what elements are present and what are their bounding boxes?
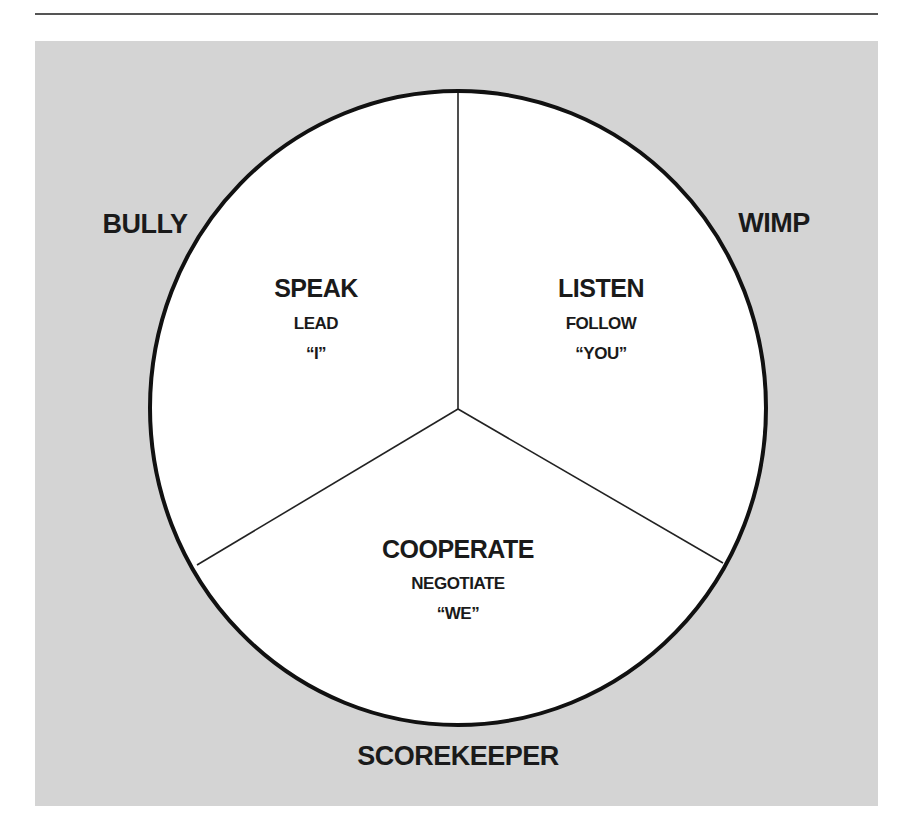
segment-left-title: SPEAK: [274, 276, 358, 301]
communication-circle-diagram: [0, 0, 914, 838]
segment-bottom-pronoun: “WE”: [437, 605, 479, 622]
segment-bottom-title: COOPERATE: [382, 537, 534, 562]
segment-left-subtitle: LEAD: [294, 315, 338, 332]
segment-bottom-subtitle: NEGOTIATE: [411, 575, 504, 592]
label-scorekeeper: SCOREKEEPER: [357, 743, 559, 770]
segment-right-subtitle: FOLLOW: [566, 315, 637, 332]
label-bully: BULLY: [102, 211, 187, 238]
segment-left-pronoun: “I”: [306, 345, 326, 362]
segment-right-title: LISTEN: [558, 276, 644, 301]
label-wimp: WIMP: [738, 210, 810, 237]
segment-right-pronoun: “YOU”: [575, 345, 626, 362]
